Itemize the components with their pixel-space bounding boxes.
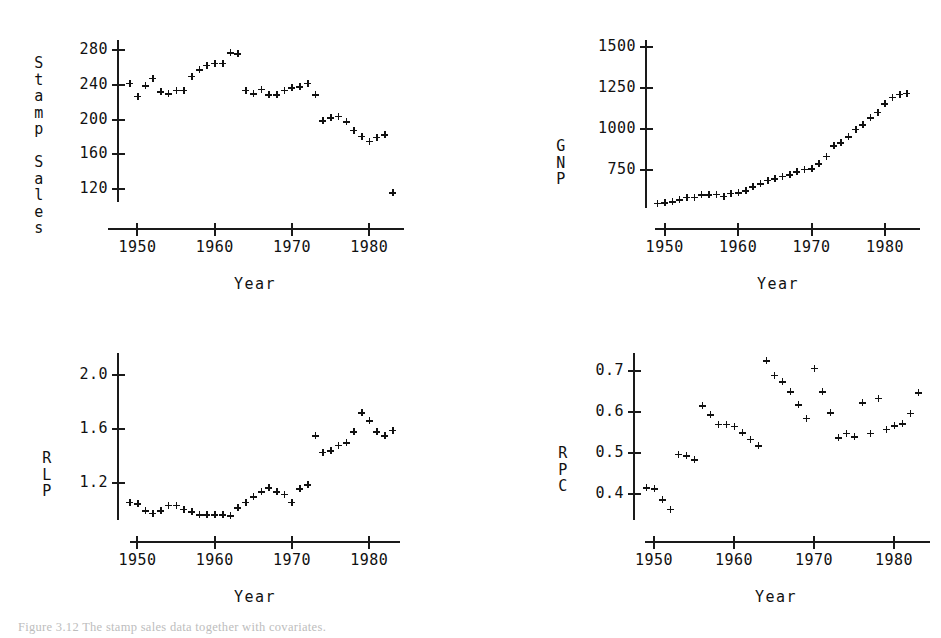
data-point-marker <box>296 485 303 492</box>
data-point-marker <box>234 504 241 511</box>
data-point-marker <box>715 421 722 428</box>
data-point-marker <box>845 133 852 140</box>
data-point-marker <box>373 134 380 141</box>
data-point-marker <box>219 60 226 67</box>
stamp-sales-data-points <box>0 0 470 320</box>
data-point-marker <box>801 166 808 173</box>
data-point-marker <box>273 488 280 495</box>
data-point-marker <box>288 84 295 91</box>
data-point-marker <box>891 422 898 429</box>
data-point-marker <box>859 121 866 128</box>
data-point-marker <box>350 428 357 435</box>
data-point-marker <box>843 430 850 437</box>
data-point-marker <box>203 511 210 518</box>
gnp-plot-area: 7501000125015001950196019701980YearGNP <box>470 0 941 320</box>
data-point-marker <box>643 484 650 491</box>
data-point-marker <box>281 87 288 94</box>
data-point-marker <box>837 139 844 146</box>
data-point-marker <box>319 449 326 456</box>
data-point-marker <box>227 512 234 519</box>
data-point-marker <box>859 399 866 406</box>
data-point-marker <box>705 191 712 198</box>
data-point-marker <box>250 90 257 97</box>
data-point-marker <box>358 133 365 140</box>
data-point-marker <box>720 193 727 200</box>
data-point-marker <box>875 395 882 402</box>
gnp-data-points <box>470 0 941 320</box>
data-point-marker <box>852 126 859 133</box>
data-point-marker <box>735 189 742 196</box>
data-point-marker <box>727 190 734 197</box>
data-point-marker <box>343 439 350 446</box>
data-point-marker <box>811 365 818 372</box>
data-point-marker <box>149 75 156 82</box>
data-point-marker <box>288 499 295 506</box>
data-point-marker <box>211 511 218 518</box>
data-point-marker <box>867 430 874 437</box>
data-point-marker <box>723 421 730 428</box>
data-point-marker <box>654 200 661 207</box>
data-point-marker <box>764 177 771 184</box>
data-point-marker <box>815 160 822 167</box>
data-point-marker <box>874 109 881 116</box>
data-point-marker <box>335 113 342 120</box>
data-point-marker <box>296 83 303 90</box>
data-point-marker <box>219 511 226 518</box>
data-point-marker <box>899 420 906 427</box>
data-point-marker <box>126 499 133 506</box>
data-point-marker <box>803 415 810 422</box>
data-point-marker <box>675 451 682 458</box>
data-point-marker <box>343 118 350 125</box>
data-point-marker <box>713 191 720 198</box>
data-point-marker <box>763 357 770 364</box>
data-point-marker <box>173 502 180 509</box>
data-point-marker <box>867 114 874 121</box>
data-point-marker <box>373 428 380 435</box>
data-point-marker <box>915 389 922 396</box>
stamp-sales-chart: 1201602002402801950196019701980YearStamp… <box>0 0 470 320</box>
data-point-marker <box>327 447 334 454</box>
data-point-marker <box>830 142 837 149</box>
data-point-marker <box>698 191 705 198</box>
data-point-marker <box>134 93 141 100</box>
data-point-marker <box>659 496 666 503</box>
data-point-marker <box>142 82 149 89</box>
figure-caption: Figure 3.12 The stamp sales data togethe… <box>18 620 923 638</box>
data-point-marker <box>165 90 172 97</box>
data-point-marker <box>281 491 288 498</box>
data-point-marker <box>691 456 698 463</box>
data-point-marker <box>258 86 265 93</box>
data-point-marker <box>757 180 764 187</box>
data-point-marker <box>312 432 319 439</box>
data-point-marker <box>142 507 149 514</box>
data-point-marker <box>787 388 794 395</box>
data-point-marker <box>358 409 365 416</box>
data-point-marker <box>771 175 778 182</box>
data-point-marker <box>134 500 141 507</box>
data-point-marker <box>173 87 180 94</box>
data-point-marker <box>793 168 800 175</box>
data-point-marker <box>889 94 896 101</box>
data-point-marker <box>683 194 690 201</box>
data-point-marker <box>211 60 218 67</box>
data-point-marker <box>180 506 187 513</box>
data-point-marker <box>203 62 210 69</box>
gnp-chart: 7501000125015001950196019701980YearGNP <box>470 0 941 320</box>
rpc-data-points <box>470 320 941 620</box>
data-point-marker <box>771 372 778 379</box>
data-point-marker <box>188 508 195 515</box>
data-point-marker <box>335 442 342 449</box>
data-point-marker <box>676 196 683 203</box>
rlp-chart: 1.21.62.01950196019701980YearRLP <box>0 320 470 620</box>
data-point-marker <box>907 410 914 417</box>
data-point-marker <box>881 100 888 107</box>
rlp-data-points <box>0 320 470 620</box>
data-point-marker <box>381 432 388 439</box>
data-point-marker <box>157 507 164 514</box>
data-point-marker <box>896 91 903 98</box>
data-point-marker <box>188 73 195 80</box>
data-point-marker <box>319 117 326 124</box>
data-point-marker <box>389 189 396 196</box>
data-point-marker <box>258 488 265 495</box>
data-point-marker <box>149 510 156 517</box>
